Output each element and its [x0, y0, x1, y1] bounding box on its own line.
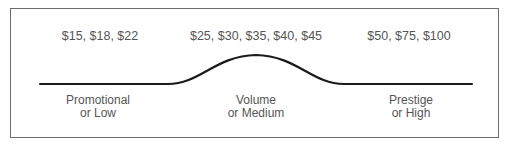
- tier-label-line2: or Medium: [228, 107, 285, 120]
- tier-label-line2: or High: [389, 107, 433, 120]
- tier-label-line2: or Low: [66, 107, 130, 120]
- tier-label-volume: Volume or Medium: [228, 94, 285, 120]
- price-points-prestige: $50, $75, $100: [367, 29, 450, 43]
- price-points-promotional: $15, $18, $22: [62, 29, 138, 43]
- demand-curve: [0, 0, 512, 149]
- price-points-volume: $25, $30, $35, $40, $45: [190, 29, 322, 43]
- tier-label-promotional: Promotional or Low: [66, 94, 130, 120]
- tier-label-prestige: Prestige or High: [389, 94, 433, 120]
